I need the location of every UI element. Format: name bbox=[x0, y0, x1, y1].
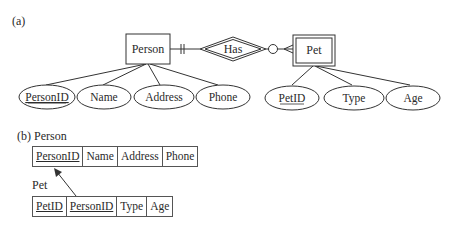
attr-address: Address bbox=[134, 85, 194, 109]
pet-col-petid: PetID bbox=[33, 197, 67, 217]
person-has-connector bbox=[170, 44, 200, 54]
person-col-address: Address bbox=[117, 147, 162, 167]
attr-age: Age bbox=[386, 86, 440, 110]
pet-col-personid: PersonID bbox=[66, 197, 116, 217]
pet-table: PetID PersonID Type Age bbox=[32, 196, 173, 217]
pet-table-label: Pet bbox=[32, 178, 47, 193]
crow-foot-icon bbox=[284, 45, 293, 49]
person-attribute-lines bbox=[46, 64, 218, 85]
relationship-has-label: Has bbox=[224, 42, 243, 56]
part-b-label: (b) Person bbox=[17, 129, 67, 144]
person-col-name: Name bbox=[83, 147, 117, 167]
attr-address-label: Address bbox=[145, 91, 183, 103]
attr-name-label: Name bbox=[90, 91, 117, 103]
person-col-phone: Phone bbox=[162, 147, 198, 167]
attr-petid: PetID bbox=[265, 86, 319, 110]
person-col-personid: PersonID bbox=[33, 147, 83, 167]
entity-person-label: Person bbox=[132, 42, 165, 56]
zero-circle-icon bbox=[269, 45, 278, 54]
attr-personid-label: PersonID bbox=[25, 91, 68, 103]
attr-personid: PersonID bbox=[19, 85, 75, 109]
has-pet-connector bbox=[266, 45, 293, 54]
attr-phone: Phone bbox=[196, 85, 250, 109]
pet-col-age: Age bbox=[147, 197, 173, 217]
attr-type: Type bbox=[324, 86, 384, 110]
attr-petid-label: PetID bbox=[279, 92, 306, 104]
attr-age-label: Age bbox=[403, 92, 422, 105]
er-diagram: Person Has Pet PersonID Name Address bbox=[0, 0, 457, 229]
relationship-has: Has bbox=[200, 37, 266, 61]
entity-pet: Pet bbox=[293, 35, 335, 66]
entity-pet-label: Pet bbox=[306, 43, 322, 57]
crow-foot-icon bbox=[284, 49, 293, 53]
foreign-key-arrow bbox=[54, 168, 76, 196]
attr-type-label: Type bbox=[343, 92, 366, 105]
entity-person: Person bbox=[126, 34, 170, 64]
attr-name: Name bbox=[77, 85, 131, 109]
pet-col-type: Type bbox=[117, 197, 147, 217]
arrowhead-icon bbox=[54, 168, 62, 177]
attr-phone-label: Phone bbox=[209, 91, 238, 103]
person-table: PersonID Name Address Phone bbox=[32, 146, 198, 167]
pet-attribute-lines bbox=[292, 66, 410, 85]
